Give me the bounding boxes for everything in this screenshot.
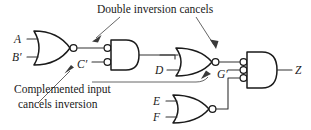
label-d: D bbox=[154, 64, 164, 76]
gate-and-2-input-bubble-top bbox=[104, 45, 111, 52]
wire-and2-to-nor3 bbox=[139, 55, 175, 59]
gate-nor-1-output-bubble bbox=[70, 45, 77, 52]
label-g-not: G′ bbox=[217, 68, 228, 80]
logic-circuit-figure: A B′ C′ D G′ E F Z Double inversion canc… bbox=[0, 0, 311, 130]
gate-nor-4-output-bubble bbox=[209, 106, 216, 113]
gate-and-2 bbox=[104, 40, 139, 70]
gate-and-2-body bbox=[111, 40, 139, 70]
label-e: E bbox=[152, 95, 160, 107]
gate-and-5-body bbox=[247, 52, 277, 88]
leader-double-inversion-left bbox=[96, 17, 120, 38]
label-f: F bbox=[152, 111, 161, 123]
gate-nor-4 bbox=[173, 95, 216, 123]
label-b-not: B′ bbox=[12, 51, 22, 63]
gate-and-2-input-bubble-bottom bbox=[104, 59, 111, 66]
gate-nor-3-output-bubble bbox=[212, 59, 219, 66]
label-c-not: C′ bbox=[77, 58, 88, 70]
gate-and-5-input-bubble-2 bbox=[240, 67, 247, 74]
label-z: Z bbox=[295, 64, 302, 76]
gate-nor-1 bbox=[34, 31, 77, 65]
annotation-double-inversion: Double inversion cancels bbox=[97, 3, 214, 15]
gate-and-5-input-bubble-1 bbox=[240, 59, 247, 66]
label-a: A bbox=[13, 33, 22, 45]
gate-nor-4-body bbox=[173, 95, 209, 123]
gate-and-5 bbox=[240, 52, 277, 88]
leader-double-inversion-right-arrowhead bbox=[210, 40, 219, 50]
leader-double-inversion-left-arrowhead bbox=[92, 35, 102, 43]
circuit-canvas: A B′ C′ D G′ E F Z Double inversion canc… bbox=[0, 0, 311, 130]
annotation-complemented-line2: cancels inversion bbox=[18, 98, 98, 110]
leader-complemented-to-gnot bbox=[92, 77, 208, 82]
wire-nor4-to-and5-bottom bbox=[213, 78, 240, 109]
gate-and-5-input-bubble-3 bbox=[240, 75, 247, 82]
gate-nor-3 bbox=[176, 48, 219, 76]
gate-nor-1-body bbox=[34, 31, 70, 65]
leader-complemented-to-gnot-arrowhead bbox=[201, 71, 211, 80]
annotation-complemented-line1: Complemented input bbox=[14, 83, 112, 96]
